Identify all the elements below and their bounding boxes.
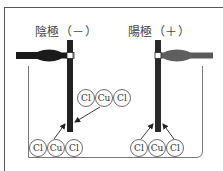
anode-clip — [161, 50, 213, 62]
atom-cl: Cl — [170, 143, 180, 153]
anode-label: 陽極（＋） — [128, 22, 191, 39]
atom-cu: Cu — [151, 143, 164, 153]
arrow-cu-up-to-cathode — [54, 124, 65, 139]
cathode-label: 陰極（－） — [35, 22, 98, 39]
cathode-upper-molecule: Cl Cu Cl — [78, 90, 131, 107]
arrow-cl-left-to-anode — [141, 124, 153, 139]
atom-cl: Cl — [81, 93, 91, 103]
anode-lower-molecule: Cl Cu Cl — [131, 140, 184, 157]
electrolysis-diagram: Cl Cu Cl Cl Cu Cl Cl Cu Cl 陰極（－） 陽極（＋） — [0, 0, 223, 171]
atom-cl: Cl — [33, 143, 43, 153]
atom-cl: Cl — [117, 93, 127, 103]
atom-cu: Cu — [50, 143, 63, 153]
atom-cl: Cl — [134, 143, 144, 153]
atom-cl: Cl — [69, 143, 79, 153]
atom-cu: Cu — [98, 93, 111, 103]
arrow-cu-to-cathode — [75, 107, 100, 122]
arrow-cl-right-to-anode — [163, 124, 174, 139]
cathode-lower-molecule: Cl Cu Cl — [30, 140, 83, 157]
cathode-clip — [16, 50, 74, 62]
